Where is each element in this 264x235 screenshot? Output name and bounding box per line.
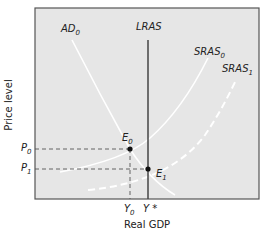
y-axis-title: Price level [3,79,14,130]
e0-point [127,146,132,151]
p0-tick-label: P0 [21,142,32,156]
ad-as-diagram: AD0 LRAS SRAS0 SRAS1 E0 E1 P0 P1 Y0 Y * … [0,0,264,235]
x-axis-title: Real GDP [124,219,170,230]
ystar-tick-label: Y * [143,203,157,214]
y0-tick-label: Y0 [124,203,135,217]
lras-label: LRAS [136,21,162,32]
p1-tick-label: P1 [21,162,32,176]
e1-point [145,166,150,171]
